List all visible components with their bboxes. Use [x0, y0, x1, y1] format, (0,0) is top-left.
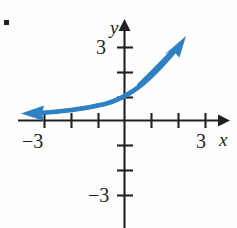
- x-axis-name-label: x: [219, 130, 227, 149]
- coordinate-plane: [0, 0, 237, 228]
- y-axis-name-label: y: [110, 18, 118, 37]
- curve-arrowhead-left: [21, 106, 44, 122]
- y-axis-arrowhead: [119, 19, 131, 31]
- x-axis-tick-label-3: 3: [196, 131, 206, 151]
- x-axis-tick-label-minus-3: −3: [22, 131, 43, 151]
- y-axis-tick-label-3: 3: [96, 37, 106, 57]
- exponential-curve: [32, 52, 173, 114]
- y-axis-tick-label-minus-3: −3: [88, 185, 109, 205]
- graph-figure: 3 −3 −3 3 y x: [0, 0, 237, 228]
- bullet-marker-icon: [4, 20, 9, 25]
- x-axis-arrowhead: [218, 115, 230, 127]
